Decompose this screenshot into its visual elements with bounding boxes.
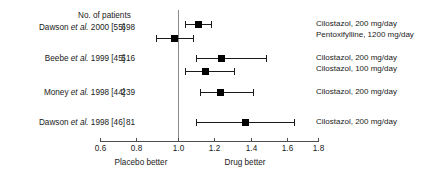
ci-cap-low	[196, 55, 197, 62]
patients-column-header: No. of patients	[78, 11, 131, 20]
arm-label-dawson2000-pentoxifylline1200: Pentoxifylline, 1200 mg/day	[316, 30, 414, 39]
patient-count-row-2: 239	[100, 88, 135, 97]
x-axis-tick	[251, 138, 252, 141]
ci-cap-low	[200, 89, 201, 96]
ci-cap-high	[294, 119, 295, 126]
study-author: Money	[44, 88, 69, 97]
x-axis-tick	[100, 138, 101, 141]
study-etal: et al.	[71, 88, 89, 97]
axis-caption-placebo-better: Placebo better	[96, 158, 186, 167]
arm-label-beebe1999-cilostazol200: Cilostazol, 200 mg/day	[316, 53, 397, 62]
reference-line-at-one	[178, 10, 179, 141]
study-author: Beebe	[45, 54, 69, 63]
ci-cap-high	[193, 35, 194, 42]
x-axis-line	[100, 141, 319, 142]
ci-whisker	[185, 71, 234, 72]
arm-label-dawson2000-cilostazol200: Cilostazol, 200 mg/day	[316, 19, 397, 28]
ci-cap-low	[185, 68, 186, 75]
ci-cap-high	[266, 55, 267, 62]
ci-cap-low	[196, 119, 197, 126]
study-etal: et al.	[71, 118, 89, 127]
ci-cap-high	[253, 89, 254, 96]
x-axis-tick-label-0: 0.6	[86, 144, 115, 153]
point-estimate-marker	[202, 68, 209, 75]
study-etal: et al.	[71, 54, 89, 63]
x-axis-tick	[318, 138, 319, 141]
x-axis-tick	[178, 138, 179, 141]
ci-cap-low	[185, 21, 186, 28]
forest-plot: No. of patients Dawson et al. 2000 [55] …	[0, 0, 423, 176]
x-axis-tick-label-6: 1.8	[304, 144, 333, 153]
patient-count-row-0: 698	[100, 23, 135, 32]
point-estimate-marker	[171, 35, 178, 42]
point-estimate-marker	[217, 89, 224, 96]
x-axis-tick	[287, 138, 288, 141]
ci-whisker	[196, 58, 266, 59]
study-author: Dawson	[39, 118, 69, 127]
point-estimate-marker	[195, 21, 202, 28]
ci-whisker	[200, 92, 253, 93]
arm-label-money1998-cilostazol200: Cilostazol, 200 mg/day	[316, 87, 397, 96]
x-axis-tick	[214, 138, 215, 141]
study-author: Dawson	[39, 23, 69, 32]
x-axis-tick-label-3: 1.2	[200, 144, 229, 153]
patient-count-row-1: 516	[100, 54, 135, 63]
point-estimate-marker	[218, 55, 225, 62]
ci-cap-high	[234, 68, 235, 75]
axis-caption-drug-better: Drug better	[200, 158, 290, 167]
point-estimate-marker	[242, 119, 249, 126]
study-etal: et al.	[71, 23, 89, 32]
x-axis-tick-label-4: 1.4	[237, 144, 266, 153]
ci-cap-low	[156, 35, 157, 42]
x-axis-tick	[136, 138, 137, 141]
x-axis-tick-label-2: 1.0	[164, 144, 193, 153]
arm-label-beebe1999-cilostazol100: Cilostazol, 100 mg/day	[316, 64, 397, 73]
x-axis-tick-label-1: 0.8	[122, 144, 151, 153]
x-axis-tick-label-5: 1.6	[273, 144, 302, 153]
patient-count-row-3: 81	[100, 118, 135, 127]
arm-label-dawson1998-cilostazol200: Cilostazol, 200 mg/day	[316, 117, 397, 126]
ci-cap-high	[211, 21, 212, 28]
